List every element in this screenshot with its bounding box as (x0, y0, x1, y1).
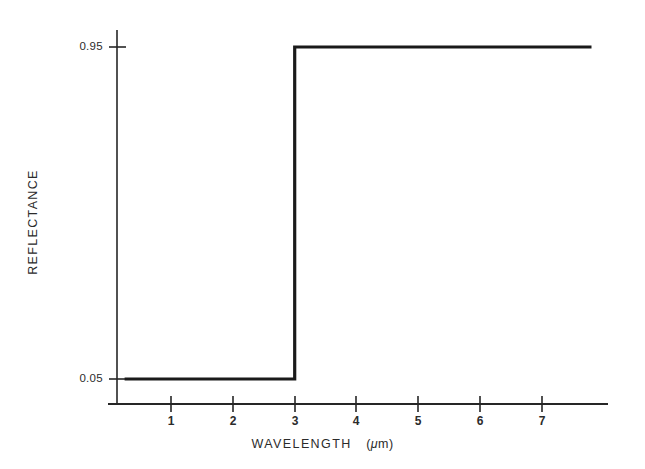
x-ticklabel-7: 7 (531, 414, 553, 428)
y-axis-title: REFLECTANCE (26, 127, 40, 317)
y-ticklabel-0.95: 0.95 (48, 40, 103, 52)
reflectance-step-curve (125, 47, 592, 379)
x-ticklabel-1: 1 (160, 414, 182, 428)
chart-canvas (0, 0, 645, 469)
x-axis-unit-mu: μ (371, 437, 378, 451)
x-ticklabel-5: 5 (407, 414, 429, 428)
x-ticklabel-4: 4 (345, 414, 367, 428)
y-ticklabel-0.05: 0.05 (48, 372, 103, 384)
x-axis-title-main: WAVELENGTH (252, 437, 352, 451)
axes-group (108, 30, 608, 405)
x-axis-unit-rest: m) (378, 437, 393, 451)
x-axis-title: WAVELENGTH (μm) (0, 437, 645, 451)
x-ticklabel-6: 6 (469, 414, 491, 428)
reflectance-wavelength-figure: 0.95 0.05 1 2 3 4 5 6 7 REFLECTANCE WAVE… (0, 0, 645, 469)
x-ticklabel-2: 2 (222, 414, 244, 428)
x-ticklabel-3: 3 (284, 414, 306, 428)
